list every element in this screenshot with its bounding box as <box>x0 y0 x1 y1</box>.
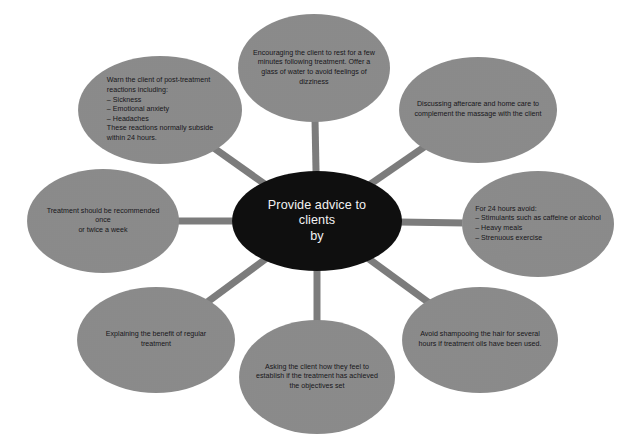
node-label-post-treatment-reactions: Warn the client of post-treatment reacti… <box>95 76 225 143</box>
mind-map-diagram: Provide advice to clients by Warn the cl… <box>0 0 632 443</box>
center-node-provide-advice[interactable]: Provide advice to clients by <box>232 171 402 271</box>
node-rest-and-water[interactable]: Encouraging the client to rest for a few… <box>238 14 390 122</box>
node-label-benefit-of-regular-treatment: Explaining the benefit of regular treatm… <box>94 330 218 349</box>
connector-avoid-shampooing <box>367 258 430 304</box>
connector-rest-and-water <box>315 118 316 175</box>
node-recommended-frequency[interactable]: Treatment should be recommended once or … <box>27 169 179 273</box>
node-for-24-hours-avoid[interactable]: For 24 hours avoid: – Stimulants such as… <box>462 171 614 277</box>
node-benefit-of-regular-treatment[interactable]: Explaining the benefit of regular treatm… <box>77 287 235 393</box>
node-label-rest-and-water: Encouraging the client to rest for a few… <box>241 49 387 87</box>
node-label-aftercare-home-care: Discussing aftercare and home care to co… <box>403 100 554 119</box>
node-post-treatment-reactions[interactable]: Warn the client of post-treatment reacti… <box>78 56 242 164</box>
node-label-recommended-frequency: Treatment should be recommended once or … <box>27 207 179 236</box>
connector-for-24-hours-avoid <box>398 222 466 223</box>
connector-aftercare-home-care <box>369 146 426 186</box>
connector-post-treatment-reactions <box>213 147 266 185</box>
node-label-asking-how-they-feel: Asking the client how they feel to estab… <box>244 363 390 392</box>
node-aftercare-home-care[interactable]: Discussing aftercare and home care to co… <box>399 57 557 163</box>
connector-benefit-of-regular-treatment <box>206 258 267 303</box>
node-label-for-24-hours-avoid: For 24 hours avoid: – Stimulants such as… <box>463 205 613 243</box>
node-avoid-shampooing[interactable]: Avoid shampooing the hair for several ho… <box>402 287 558 393</box>
node-label-avoid-shampooing: Avoid shampooing the hair for several ho… <box>406 330 553 349</box>
center-node-label: Provide advice to clients by <box>232 198 402 245</box>
node-asking-how-they-feel[interactable]: Asking the client how they feel to estab… <box>239 320 395 434</box>
